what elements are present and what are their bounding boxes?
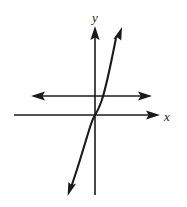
x-axis-label: x: [163, 109, 170, 124]
cubic-graph-figure: y x: [0, 0, 187, 207]
y-axis-label: y: [90, 10, 98, 25]
figure-root: y x: [0, 0, 187, 207]
cubic-curve-path: [72, 38, 117, 186]
curve-arrow-up-icon: [113, 27, 122, 40]
